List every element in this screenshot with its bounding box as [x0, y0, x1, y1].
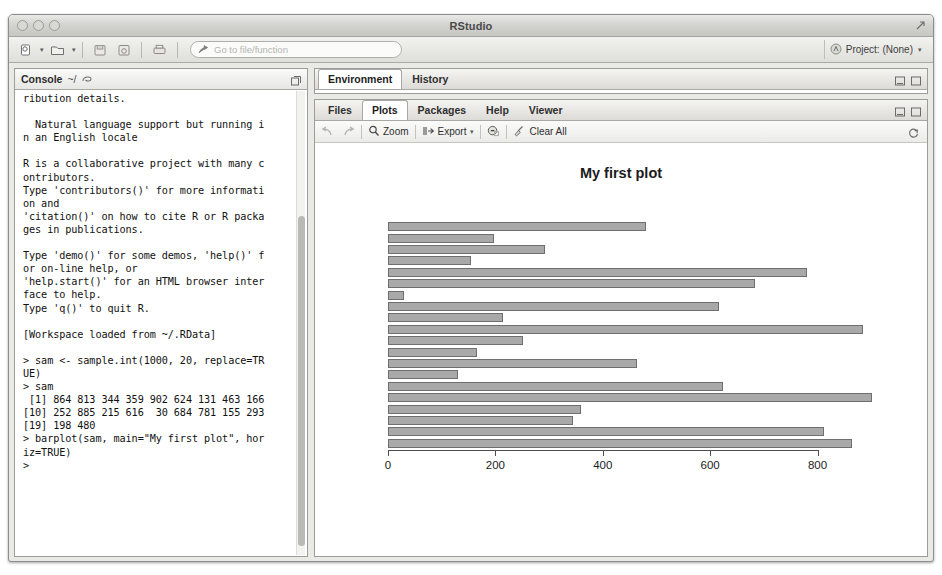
tab-history[interactable]: History [402, 69, 458, 89]
plots-toolbar-separator [361, 125, 362, 139]
x-axis-tick-label: 400 [593, 459, 612, 471]
bar [388, 405, 581, 414]
bar [388, 291, 404, 300]
bar [388, 336, 523, 345]
export-caret-icon[interactable]: ▾ [470, 128, 474, 136]
environment-header-icons [894, 73, 922, 91]
tab-environment[interactable]: Environment [318, 69, 402, 89]
bar [388, 416, 573, 425]
window-controls [17, 20, 60, 31]
console-output: ribution details. Natural language suppo… [23, 92, 301, 472]
x-axis-tick-label: 600 [701, 459, 720, 471]
plots-toolbar: Zoom Export ▾ [315, 121, 927, 143]
clear-all-button[interactable]: Clear All [513, 125, 566, 139]
toolbar-separator [82, 42, 83, 58]
zoom-button[interactable] [49, 20, 60, 31]
plots-pane: Files Plots Packages Help Viewer [314, 99, 928, 557]
print-button[interactable] [148, 40, 171, 59]
project-selector[interactable]: Project: (None) ▾ [824, 40, 927, 59]
tab-packages[interactable]: Packages [408, 100, 476, 120]
new-project-caret-icon[interactable]: ▾ [72, 46, 76, 54]
expand-icon[interactable] [915, 20, 926, 31]
console-path: ~/ [67, 73, 76, 85]
bar [388, 427, 824, 436]
pane-container: Console ~/ ribution details. Natural lan… [9, 63, 933, 562]
export-label: Export [438, 126, 467, 137]
save-button[interactable] [89, 40, 111, 59]
environment-tabs: Environment History [315, 69, 927, 90]
clear-console-icon[interactable] [81, 70, 94, 88]
export-icon [422, 125, 435, 139]
goto-file-function-input[interactable]: Go to file/function [190, 41, 402, 58]
x-axis-tick [710, 450, 711, 456]
minimize-icon[interactable] [894, 104, 906, 122]
console-header-icons [290, 73, 302, 91]
new-project-button[interactable] [46, 40, 69, 59]
right-pane-column: Environment History Files [314, 68, 928, 557]
remove-plot-button[interactable] [487, 125, 500, 139]
refresh-icon[interactable] [907, 125, 920, 143]
x-axis-tick-label: 800 [808, 459, 827, 471]
back-arrow-icon[interactable] [321, 126, 335, 138]
goto-arrow-icon [198, 41, 209, 59]
plots-toolbar-separator-3 [480, 125, 481, 139]
project-label: Project: (None) [846, 44, 913, 55]
maximize-icon[interactable] [290, 73, 302, 91]
new-file-button[interactable] [15, 40, 37, 59]
maximize-icon[interactable] [910, 73, 922, 91]
window-titlebar: RStudio [9, 15, 933, 37]
rstudio-window: RStudio ▾ ▾ Go to file/function [8, 14, 934, 562]
plots-tabs: Files Plots Packages Help Viewer [315, 100, 927, 121]
bar [388, 256, 471, 265]
bar [388, 268, 807, 277]
goto-placeholder: Go to file/function [214, 44, 288, 55]
broom-icon [513, 125, 526, 139]
bar [388, 348, 477, 357]
project-caret-icon[interactable]: ▾ [918, 46, 922, 54]
forward-arrow-icon[interactable] [341, 126, 355, 138]
x-axis-tick-label: 0 [385, 459, 391, 471]
remove-plot-icon [487, 125, 500, 139]
export-button[interactable]: Export ▾ [422, 125, 475, 139]
plot-title: My first plot [315, 165, 927, 181]
tab-files[interactable]: Files [318, 100, 362, 120]
console-pane: Console ~/ ribution details. Natural lan… [14, 68, 308, 557]
bar [388, 234, 494, 243]
project-icon [830, 43, 842, 57]
bar [388, 302, 719, 311]
console-scrollbar-thumb[interactable] [298, 216, 305, 545]
bar [388, 245, 545, 254]
plot-x-axis: 0200400600800 [388, 450, 915, 490]
save-all-button[interactable] [113, 40, 135, 59]
plots-header-icons [894, 104, 922, 122]
environment-pane: Environment History [314, 68, 928, 94]
minimize-button[interactable] [33, 20, 44, 31]
bar [388, 370, 458, 379]
plot-bars [388, 221, 915, 449]
zoom-magnifier-icon [368, 125, 380, 139]
bar [388, 325, 863, 334]
zoom-plot-button[interactable]: Zoom [368, 125, 409, 139]
x-axis-tick [818, 450, 819, 456]
x-axis-tick-label: 200 [486, 459, 505, 471]
minimize-icon[interactable] [894, 73, 906, 91]
bar [388, 222, 646, 231]
bar [388, 359, 637, 368]
tab-plots[interactable]: Plots [362, 100, 408, 120]
console-title: Console [21, 73, 62, 85]
x-axis-tick [388, 450, 389, 456]
x-axis-tick [495, 450, 496, 456]
console-scrollbar[interactable] [296, 91, 305, 555]
main-toolbar: ▾ ▾ Go to file/function Project: (None) [9, 37, 933, 63]
tab-help[interactable]: Help [476, 100, 519, 120]
new-file-caret-icon[interactable]: ▾ [40, 46, 44, 54]
maximize-icon[interactable] [910, 104, 922, 122]
bar [388, 279, 755, 288]
tab-viewer[interactable]: Viewer [519, 100, 573, 120]
console-header: Console ~/ [15, 69, 307, 90]
x-axis-tick [603, 450, 604, 456]
console-body[interactable]: ribution details. Natural language suppo… [15, 90, 307, 556]
toolbar-separator-3 [177, 42, 178, 58]
close-button[interactable] [17, 20, 28, 31]
plots-toolbar-separator-4 [506, 125, 507, 139]
